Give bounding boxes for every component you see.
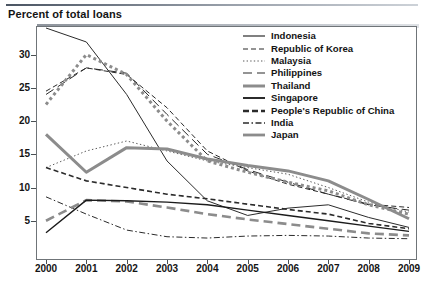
x-axis-label: 2009 (389, 263, 424, 274)
legend-label: Philippines (271, 67, 322, 79)
legend-label: Japan (271, 129, 299, 141)
x-axis-tick (409, 260, 410, 264)
legend-label: People's Republic of China (271, 105, 394, 117)
x-axis-tick (207, 260, 208, 264)
x-axis-tick (328, 260, 329, 264)
legend-item: India (243, 117, 394, 129)
x-axis-label: 2000 (26, 263, 66, 274)
legend-swatch-thick-solid (243, 92, 265, 104)
x-axis-label: 2004 (187, 263, 227, 274)
y-axis-label: 25 (4, 82, 30, 93)
legend-label: Indonesia (271, 30, 316, 42)
legend-item: Malaysia (243, 55, 394, 67)
legend-swatch-thin-longdash (243, 67, 265, 79)
x-axis-label: 2005 (228, 263, 268, 274)
y-axis-label: 30 (4, 49, 30, 60)
legend-swatch-thick-gray-dash (243, 105, 265, 117)
x-axis-label: 2003 (147, 263, 187, 274)
legend-item: Indonesia (243, 30, 394, 42)
y-axis-label: 10 (4, 182, 30, 193)
legend-swatch-thick-gray-dot (243, 80, 265, 92)
x-axis-label: 2007 (308, 263, 348, 274)
x-axis-label: 2001 (66, 263, 106, 274)
x-axis-tick (248, 260, 249, 264)
series-line (46, 200, 409, 235)
legend-swatch-thin-dash (243, 43, 265, 55)
legend-label: India (271, 117, 293, 129)
y-axis-label: 5 (4, 215, 30, 226)
legend-item: Thailand (243, 80, 394, 92)
x-axis-tick (46, 260, 47, 264)
x-axis-label: 2006 (268, 263, 308, 274)
x-axis-tick (369, 260, 370, 264)
legend-swatch-thin-dashdot (243, 117, 265, 129)
x-axis-tick (167, 260, 168, 264)
x-axis-tick (86, 260, 87, 264)
legend-item: People's Republic of China (243, 104, 394, 116)
legend-item: Japan (243, 129, 394, 141)
x-axis-label: 2002 (107, 263, 147, 274)
x-axis-tick (288, 260, 289, 264)
legend-swatch-thin-dot (243, 55, 265, 67)
chart-container: Percent of total loans 51015202530200020… (0, 0, 424, 295)
legend-item: Singapore (243, 92, 394, 104)
top-divider (6, 4, 418, 6)
y-axis-label: 20 (4, 115, 30, 126)
legend-swatch-thin-solid (243, 30, 265, 42)
chart-legend: IndonesiaRepublic of KoreaMalaysiaPhilip… (243, 30, 394, 142)
legend-label: Thailand (271, 80, 310, 92)
legend-label: Republic of Korea (271, 43, 353, 55)
legend-label: Malaysia (271, 55, 311, 67)
x-axis-label: 2008 (349, 263, 389, 274)
legend-item: Philippines (243, 67, 394, 79)
x-axis-tick (127, 260, 128, 264)
chart-title: Percent of total loans (8, 8, 122, 20)
legend-item: Republic of Korea (243, 42, 394, 54)
legend-label: Singapore (271, 92, 318, 104)
legend-swatch-thick-gray-longdash (243, 129, 265, 141)
y-axis-label: 15 (4, 148, 30, 159)
